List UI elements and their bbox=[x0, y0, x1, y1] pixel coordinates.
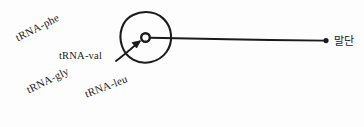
strand-line-shape bbox=[150, 38, 325, 41]
label-trna-val: tRNA-val bbox=[59, 50, 102, 61]
terminus-dot-shape bbox=[323, 38, 328, 43]
label-terminus: 말단 bbox=[334, 32, 354, 48]
inner-ring-shape bbox=[141, 33, 150, 42]
diagram-canvas: tRNA-phe tRNA-val tRNA-gly tRNA-leu 말단 bbox=[0, 0, 364, 127]
